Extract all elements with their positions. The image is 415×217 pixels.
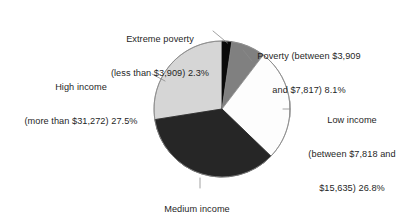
pie-label-low-income-line2: (between $7,818 and [296, 149, 408, 160]
pie-label-low-income-line3: $15,635) 26.8% [296, 183, 408, 194]
pie-label-extreme-poverty-line1: Extreme poverty [92, 34, 228, 45]
pie-label-high-income: High income (more than $31,272) 27.5% [8, 59, 154, 150]
pie-label-medium-income: Medium income (between $15,636 and $31,2… [82, 181, 312, 217]
pie-label-poverty-line1: Poverty (between $3,909 [244, 51, 374, 62]
pie-chart-figure: Extreme poverty (less than $3,909) 2.3% … [0, 0, 415, 217]
pie-label-low-income-line1: Low income [296, 115, 408, 126]
pie-label-low-income: Low income (between $7,818 and $15,635) … [296, 92, 408, 217]
pie-label-high-income-line2: (more than $31,272) 27.5% [8, 116, 154, 127]
pie-label-medium-income-line1: Medium income [82, 204, 312, 215]
pie-label-high-income-line1: High income [8, 82, 154, 93]
